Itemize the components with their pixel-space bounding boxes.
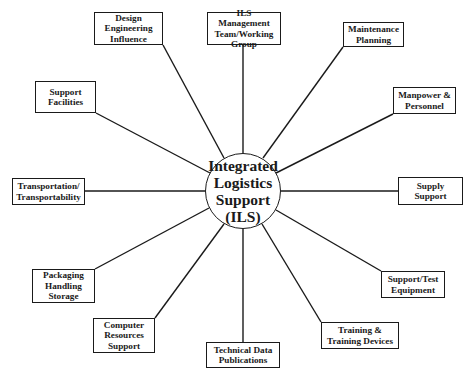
connector-facilities [96, 113, 210, 173]
node-support-facilities: Support Facilities [35, 81, 96, 113]
connector-manpower [276, 114, 393, 173]
connector-packaging [95, 208, 209, 269]
node-maintenance-planning: Maintenance Planning [343, 22, 404, 47]
connector-training [262, 224, 321, 322]
connector-design [163, 45, 224, 158]
node-supply-support: Supply Support [398, 177, 463, 205]
node-ils-management: ILS Management Team/Working Group [207, 12, 281, 45]
node-design-engineering-influence: Design Engineering Influence [94, 12, 163, 45]
node-packaging-handling-storage: Packaging Handling Storage [32, 269, 95, 303]
node-technical-data-publications: Technical Data Publications [206, 342, 280, 368]
node-transportation: Transportation/ Transportability [12, 178, 85, 205]
ils-center-node: Integrated Logistics Support (ILS) [205, 153, 281, 229]
connector-support-test [276, 210, 381, 271]
node-manpower-personnel: Manpower & Personnel [393, 87, 456, 114]
connector-maintenance [263, 47, 343, 158]
connector-computer [155, 224, 224, 318]
node-support-test-equipment: Support/Test Equipment [381, 271, 445, 298]
node-training-devices: Training & Training Devices [321, 322, 399, 349]
node-computer-resources-support: Computer Resources Support [93, 318, 155, 353]
